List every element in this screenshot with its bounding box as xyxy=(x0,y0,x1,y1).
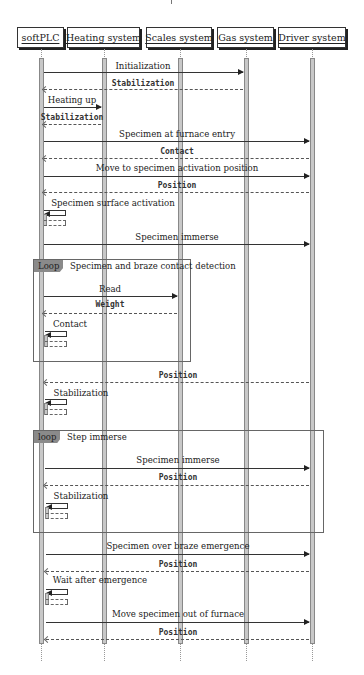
self-call-arrow xyxy=(45,399,67,405)
return-arrow xyxy=(45,485,309,486)
message-arrow xyxy=(44,244,309,245)
message-label: Stabilization xyxy=(41,113,104,123)
actor-driver-system: Driver system xyxy=(278,27,346,48)
actor-gas-system: Gas system xyxy=(217,27,274,48)
message-label: Position xyxy=(159,560,198,570)
open-arrowhead-icon xyxy=(42,188,49,195)
arrowhead-icon xyxy=(238,69,244,75)
message-label: Position xyxy=(158,181,197,191)
open-arrowhead-icon xyxy=(42,154,49,161)
message-label: Initialization xyxy=(115,61,170,71)
actor-softplc: softPLC xyxy=(17,27,64,48)
arrowhead-icon xyxy=(172,293,178,299)
arrowhead-icon xyxy=(304,551,310,557)
message-label: Stabilization xyxy=(54,491,109,501)
arrowhead-icon xyxy=(96,104,102,110)
message-label: Position xyxy=(159,473,198,483)
message-label: Specimen over braze emergence xyxy=(106,541,249,551)
message-label: Move to specimen activation position xyxy=(96,163,259,173)
arrowhead-icon xyxy=(304,138,310,144)
self-call-arrow xyxy=(45,331,67,337)
loop-title: Specimen and braze contact detection xyxy=(70,260,236,272)
self-call-arrow xyxy=(46,503,68,509)
message-label: Stabilization xyxy=(54,388,109,398)
activation-driver xyxy=(310,58,315,644)
message-label: Specimen immerse xyxy=(135,232,218,242)
message-label: Heating up xyxy=(48,95,97,105)
arrowhead-icon xyxy=(304,241,310,247)
actor-scales-system: Scales system xyxy=(146,27,212,48)
message-arrow xyxy=(45,468,309,469)
return-arrow xyxy=(45,382,309,383)
self-call-arrow xyxy=(44,210,66,216)
arrowhead-icon xyxy=(304,465,310,471)
return-arrow xyxy=(44,192,309,193)
open-arrowhead-icon xyxy=(44,567,51,574)
loop-tag: loop xyxy=(34,431,60,443)
message-label: Read xyxy=(99,284,121,294)
message-label: Contact xyxy=(53,319,87,329)
actor-label: softPLC xyxy=(22,32,60,43)
actor-label: Heating system xyxy=(66,32,141,43)
page-mark xyxy=(171,0,172,4)
actor-label: Gas system xyxy=(218,32,273,43)
message-label: Move specimen out of furnace xyxy=(112,609,244,619)
message-label: Weight xyxy=(96,300,125,310)
message-label: Position xyxy=(159,628,198,638)
self-return-arrow xyxy=(45,409,67,415)
open-arrowhead-icon xyxy=(42,85,49,92)
arrowhead-icon xyxy=(304,173,310,179)
return-arrow xyxy=(46,571,309,572)
self-return-arrow xyxy=(45,341,67,347)
actor-label: Driver system xyxy=(278,32,345,43)
loop-tag: Loop xyxy=(34,260,63,272)
message-label: Specimen surface activation xyxy=(51,198,175,208)
return-arrow xyxy=(46,639,309,640)
message-label: Position xyxy=(159,371,198,381)
message-arrow xyxy=(44,72,243,73)
message-arrow xyxy=(44,176,309,177)
message-arrow xyxy=(46,554,309,555)
message-arrow xyxy=(46,622,309,623)
open-arrowhead-icon xyxy=(44,635,51,642)
message-label: Specimen at furnace entry xyxy=(119,129,235,139)
return-arrow xyxy=(44,158,309,159)
self-call-arrow xyxy=(46,589,68,595)
message-label: Stabilization xyxy=(112,79,175,89)
arrowhead-icon xyxy=(304,619,310,625)
actor-heating-system: Heating system xyxy=(67,27,140,48)
self-return-arrow xyxy=(44,220,66,226)
activation-gas xyxy=(244,58,249,644)
message-arrow xyxy=(44,296,177,297)
return-arrow xyxy=(44,313,177,314)
message-label: Specimen immerse xyxy=(136,455,219,465)
return-arrow xyxy=(44,89,243,90)
actor-label: Scales system xyxy=(145,32,213,43)
open-arrowhead-icon xyxy=(43,378,50,385)
self-return-arrow xyxy=(46,599,68,605)
message-arrow xyxy=(44,141,309,142)
message-arrow xyxy=(44,107,101,108)
message-label: Wait after emergence xyxy=(53,575,147,585)
message-label: Contact xyxy=(160,147,194,157)
self-return-arrow xyxy=(46,513,68,519)
return-arrow xyxy=(44,124,101,125)
loop-title: Step immerse xyxy=(67,431,127,443)
